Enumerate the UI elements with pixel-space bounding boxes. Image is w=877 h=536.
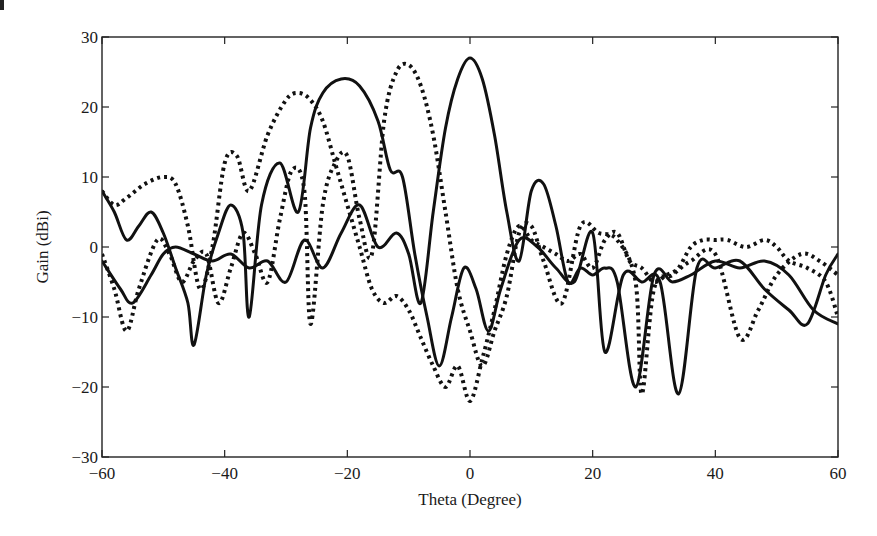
y-tick-label: −10 (71, 308, 98, 327)
y-axis-title: Gain (dBi) (33, 210, 52, 283)
x-axis-title: Theta (Degree) (418, 490, 521, 509)
x-tick-label: 0 (466, 464, 475, 483)
x-tick-label: −40 (211, 464, 238, 483)
y-tick-label: 30 (81, 28, 98, 47)
y-tick-label: 20 (81, 98, 98, 117)
series-line-3 (102, 64, 838, 394)
x-tick-label: 20 (584, 464, 601, 483)
series-line-2 (102, 79, 838, 394)
y-tick-label: 10 (81, 168, 98, 187)
y-tick-label: −30 (71, 448, 98, 467)
series-line-4 (102, 93, 838, 401)
y-tick-label: 0 (90, 238, 99, 257)
x-axis-tick-labels: −60−40−200204060 (89, 464, 847, 483)
y-tick-label: −20 (71, 378, 98, 397)
y-axis-tick-labels: −30−20−100102030 (71, 28, 98, 467)
x-tick-label: 60 (830, 464, 847, 483)
series-layer (102, 58, 838, 401)
x-tick-label: −20 (334, 464, 361, 483)
gain-vs-theta-chart: −60−40−200204060 −30−20−100102030 Theta … (0, 0, 877, 536)
x-tick-label: 40 (707, 464, 724, 483)
